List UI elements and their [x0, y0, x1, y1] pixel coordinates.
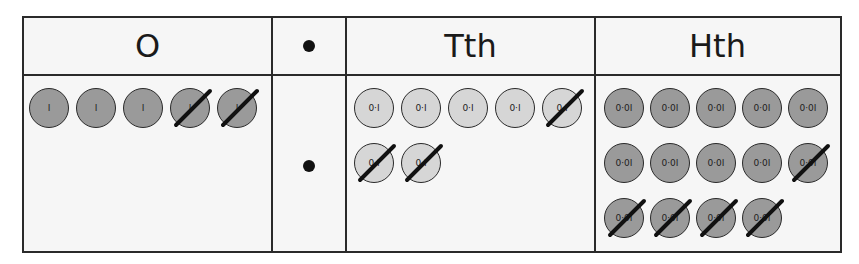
cross-out-slash-icon [404, 143, 444, 183]
counter-label: 0·0I [754, 158, 771, 168]
hundredths-counter: 0·0I [604, 88, 644, 128]
counter-label: 0·0I [662, 103, 679, 113]
tenths-counter-crossed: 0·I [354, 143, 394, 183]
hundredths-counter: 0·0I [788, 88, 828, 128]
decimal-point-icon [303, 160, 315, 172]
decimal-point-icon [303, 40, 315, 52]
header-tenths: Tth [347, 18, 594, 74]
ones-counter: I [29, 88, 69, 128]
hundredths-counter: 0·0I [742, 88, 782, 128]
ones-counter-crossed: I [217, 88, 257, 128]
cross-out-slash-icon [220, 88, 260, 128]
ones-counter-crossed: I [170, 88, 210, 128]
counter-label: I [95, 103, 98, 113]
counter-label: I [142, 103, 145, 113]
decimal-point-cell [273, 76, 345, 251]
counter-label: 0·I [415, 103, 426, 113]
tenths-counter: 0·I [448, 88, 488, 128]
hundredths-counter: 0·0I [650, 143, 690, 183]
hundredths-counter: 0·0I [696, 143, 736, 183]
ones-counter: I [76, 88, 116, 128]
cross-out-slash-icon [699, 198, 739, 238]
cross-out-slash-icon [791, 143, 831, 183]
counter-label: 0·0I [662, 158, 679, 168]
counter-label: 0·0I [754, 103, 771, 113]
tenths-cell: 0·I0·I0·I0·I0·I0·I0·I [347, 76, 594, 251]
cross-out-slash-icon [357, 143, 397, 183]
ones-cell: IIIII [24, 76, 271, 251]
hundredths-counter-crossed: 0·0I [604, 198, 644, 238]
header-hundredths: Hth [596, 18, 839, 74]
tenths-counter-crossed: 0·I [542, 88, 582, 128]
cross-out-slash-icon [545, 88, 585, 128]
counter-label: 0·0I [616, 103, 633, 113]
hundredths-counter: 0·0I [650, 88, 690, 128]
cross-out-slash-icon [745, 198, 785, 238]
counter-label: 0·0I [708, 103, 725, 113]
hundredths-counter: 0·0I [604, 143, 644, 183]
hundredths-counter-crossed: 0·0I [696, 198, 736, 238]
cross-out-slash-icon [653, 198, 693, 238]
counter-label: 0·I [462, 103, 473, 113]
hundredths-counter-crossed: 0·0I [742, 198, 782, 238]
cross-out-slash-icon [173, 88, 213, 128]
hundredths-counter: 0·0I [696, 88, 736, 128]
hundredths-counter: 0·0I [742, 143, 782, 183]
tenths-counter: 0·I [401, 88, 441, 128]
hundredths-counter-crossed: 0·0I [650, 198, 690, 238]
counter-label: 0·I [368, 103, 379, 113]
hundredths-cell: 0·0I0·0I0·0I0·0I0·0I0·0I0·0I0·0I0·0I0·0I… [596, 76, 839, 251]
tenths-counter: 0·I [354, 88, 394, 128]
counter-label: 0·0I [616, 158, 633, 168]
header-decimal-point [273, 18, 345, 74]
counter-label: 0·0I [800, 103, 817, 113]
counter-label: I [48, 103, 51, 113]
counter-label: 0·I [509, 103, 520, 113]
header-ones: O [24, 18, 271, 74]
cross-out-slash-icon [607, 198, 647, 238]
place-value-chart: O Tth Hth IIIII 0·I0·I0·I0·I0·I0·I0·I 0·… [22, 16, 842, 253]
hundredths-counter-crossed: 0·0I [788, 143, 828, 183]
tenths-counter-crossed: 0·I [401, 143, 441, 183]
tenths-counter: 0·I [495, 88, 535, 128]
counter-label: 0·0I [708, 158, 725, 168]
ones-counter: I [123, 88, 163, 128]
